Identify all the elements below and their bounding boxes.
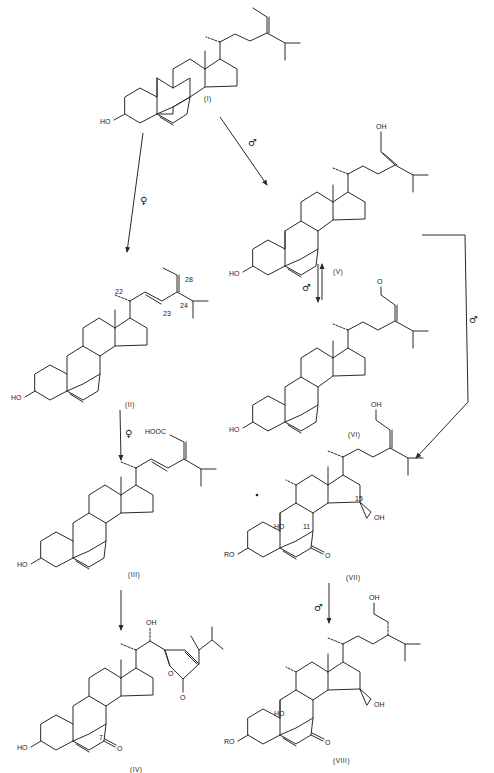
compound-III: HO HOOC (III) bbox=[17, 428, 216, 579]
hydroxyl-label: OH bbox=[371, 401, 382, 408]
compound-label: (VI) bbox=[348, 431, 360, 439]
lactone-oxygen-label: O bbox=[168, 670, 174, 677]
male-symbol: ♂ bbox=[469, 314, 478, 325]
compound-VI: HO O (VI) bbox=[229, 278, 428, 439]
compound-label: (VIII) bbox=[333, 757, 350, 765]
atom-number: 22 bbox=[115, 288, 123, 295]
compound-I: HO (I) bbox=[100, 8, 300, 125]
alkoxy-label: RO bbox=[224, 738, 235, 745]
compound-IV: HO OH O O O 7 (IV) bbox=[17, 619, 223, 773]
carbonyl-oxygen-label: O bbox=[377, 278, 383, 285]
hydroxyl-label: HO bbox=[274, 523, 285, 530]
carboxyl-label: HOOC bbox=[145, 428, 166, 435]
hydroxyl-label: HO bbox=[229, 426, 240, 433]
compound-label: (I) bbox=[204, 95, 212, 103]
female-symbol: ♀ bbox=[125, 428, 132, 439]
compound-VIII: RO HO OH OH O (VIII) bbox=[224, 594, 420, 765]
hydroxyl-label: OH bbox=[369, 594, 380, 601]
hydroxyl-label: HO bbox=[274, 710, 285, 717]
compound-label: (VII) bbox=[346, 574, 361, 582]
carbonyl-oxygen-label: O bbox=[117, 745, 123, 752]
atom-number: 28 bbox=[185, 276, 193, 283]
arrow-V-to-VII bbox=[416, 235, 468, 458]
stereo-dot bbox=[256, 494, 259, 497]
compound-label: (III) bbox=[128, 571, 140, 579]
alkoxy-label: RO bbox=[224, 551, 235, 558]
compound-V: HO OH (V) bbox=[229, 123, 428, 277]
arrow-II-to-III bbox=[120, 410, 121, 460]
male-symbol: ♂ bbox=[314, 602, 323, 613]
arrow-I-to-II bbox=[127, 133, 143, 252]
hydroxyl-label: OH bbox=[374, 701, 385, 708]
hydroxyl-label: HO bbox=[100, 118, 111, 125]
hydroxyl-label: OH bbox=[376, 123, 387, 130]
carbonyl-oxygen-label: O bbox=[325, 552, 331, 559]
hydroxyl-label: HO bbox=[17, 744, 28, 751]
atom-number: 24 bbox=[180, 302, 188, 309]
hydroxyl-label: HO bbox=[11, 394, 22, 401]
atom-number: 23 bbox=[163, 310, 171, 317]
hydroxyl-label: HO bbox=[17, 561, 28, 568]
lactone-carbonyl-label: O bbox=[180, 694, 186, 701]
hydroxyl-label: HO bbox=[229, 270, 240, 277]
male-symbol: ♂ bbox=[302, 282, 311, 293]
hydroxyl-label: OH bbox=[146, 619, 157, 626]
carbonyl-oxygen-label: O bbox=[325, 739, 331, 746]
male-symbol: ♂ bbox=[248, 137, 257, 148]
compound-label: (V) bbox=[333, 268, 343, 276]
atom-number: 7 bbox=[99, 734, 103, 741]
compound-label: (IV) bbox=[130, 766, 142, 773]
atom-number: 15 bbox=[355, 495, 363, 502]
compound-VII: RO HO OH OH O 11 15 (VII) bbox=[224, 401, 423, 582]
arrow-I-to-V bbox=[220, 117, 267, 185]
hydroxyl-label: OH bbox=[374, 514, 385, 521]
female-symbol: ♀ bbox=[140, 195, 147, 206]
compound-II: HO 22 23 24 28 (II) bbox=[11, 268, 208, 409]
reaction-scheme: HO (I) ♀ ♂ HO OH (V) ♂ bbox=[0, 0, 494, 773]
atom-number: 11 bbox=[303, 523, 310, 530]
steroid-core bbox=[114, 8, 300, 125]
compound-label: (II) bbox=[125, 401, 135, 409]
